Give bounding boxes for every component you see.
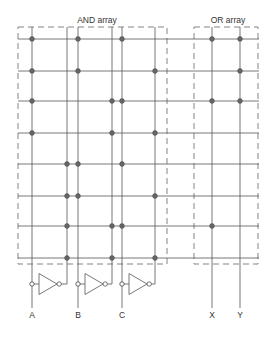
product-term-lines xyxy=(18,39,259,258)
and-connection-dot xyxy=(30,99,35,104)
input-label-c: C xyxy=(119,310,125,320)
pla-diagram: AND array OR array ABCXY xyxy=(0,0,279,340)
or-connection-dot xyxy=(210,224,215,229)
or-array-title: OR array xyxy=(211,15,246,25)
and-connection-dot xyxy=(120,162,125,167)
input-tap-dot xyxy=(76,282,80,286)
and-connection-dot xyxy=(153,194,158,199)
output-label-y: Y xyxy=(237,310,243,320)
and-array-box xyxy=(18,27,167,264)
and-connection-dot xyxy=(153,131,158,136)
and-connection-dot xyxy=(153,69,158,74)
inverter-bubble-icon xyxy=(57,282,61,286)
or-connection-dot xyxy=(210,99,215,104)
and-connection-dot xyxy=(110,256,115,261)
or-connection-dot xyxy=(238,37,243,42)
connection-dots xyxy=(30,37,243,261)
inverter-triangle-icon xyxy=(39,274,57,295)
input-tap-dot xyxy=(120,282,124,286)
or-connection-dot xyxy=(210,37,215,42)
terminal-labels: ABCXY xyxy=(29,310,243,320)
or-connection-dot xyxy=(238,99,243,104)
input-label-a: A xyxy=(29,310,35,320)
and-array-title: AND array xyxy=(77,15,117,25)
input-tap-dot xyxy=(30,282,34,286)
and-connection-dot xyxy=(120,37,125,42)
and-connection-dot xyxy=(153,256,158,261)
and-connection-dot xyxy=(65,194,70,199)
and-connection-dot xyxy=(76,69,81,74)
and-connection-dot xyxy=(30,69,35,74)
input-output-lines xyxy=(32,27,240,308)
inverter-triangle-icon xyxy=(129,274,147,295)
input-inverters xyxy=(30,274,155,295)
and-connection-dot xyxy=(30,37,35,42)
and-connection-dot xyxy=(76,37,81,42)
pla-diagram-canvas: AND array OR array ABCXY xyxy=(0,0,279,340)
and-connection-dot xyxy=(110,131,115,136)
inverter-triangle-icon xyxy=(85,274,103,295)
and-connection-dot xyxy=(120,99,125,104)
and-connection-dot xyxy=(110,224,115,229)
and-connection-dot xyxy=(76,194,81,199)
and-connection-dot xyxy=(76,162,81,167)
and-connection-dot xyxy=(65,224,70,229)
or-array-box xyxy=(194,27,258,264)
and-connection-dot xyxy=(120,224,125,229)
or-connection-dot xyxy=(238,69,243,74)
input-label-b: B xyxy=(75,310,81,320)
inverter-bubble-icon xyxy=(103,282,107,286)
and-connection-dot xyxy=(30,131,35,136)
and-connection-dot xyxy=(110,99,115,104)
and-connection-dot xyxy=(65,256,70,261)
and-connection-dot xyxy=(65,162,70,167)
output-label-x: X xyxy=(209,310,215,320)
array-boxes xyxy=(18,27,258,264)
inverter-bubble-icon xyxy=(147,282,151,286)
